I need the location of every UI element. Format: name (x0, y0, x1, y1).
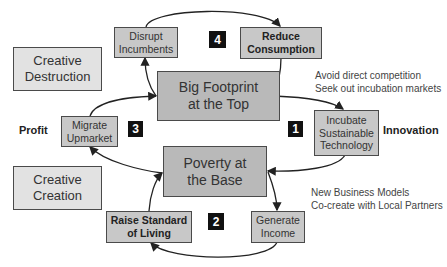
big-footprint-line2: at the Top (188, 96, 249, 113)
creative-destruction-line2: Destruction (25, 69, 91, 85)
profit-label: Profit (19, 124, 48, 136)
innovation-label: Innovation (383, 124, 439, 136)
reduce-line1: Reduce (262, 30, 300, 43)
note-top-line2: Seek out incubation markets (315, 82, 441, 95)
note-bottom-line1: New Business Models (311, 186, 443, 199)
disrupt-line2: Incumbents (119, 43, 173, 56)
note-bottom-line2: Co-create with Local Partners (311, 199, 443, 212)
incubate-technology-box: Incubate Sustainable Technology (314, 110, 379, 156)
reduce-line2: Consumption (247, 43, 315, 56)
creative-creation-box: Creative Creation (13, 166, 102, 210)
incubate-line3: Technology (320, 139, 373, 152)
step-badge-4: 4 (209, 31, 226, 48)
migrate-upmarket-box: Migrate Upmarket (61, 116, 118, 147)
generate-line2: Income (261, 227, 295, 240)
big-footprint-line1: Big Footprint (179, 79, 258, 96)
creative-destruction-line1: Creative (33, 53, 81, 69)
raise-line2: of Living (127, 227, 171, 240)
note-top-line1: Avoid direct competition (315, 69, 441, 82)
creative-destruction-box: Creative Destruction (13, 47, 102, 91)
creative-creation-line1: Creative (33, 172, 81, 188)
generate-income-box: Generate Income (251, 211, 305, 243)
step-badge-3: 3 (128, 121, 143, 137)
incubate-line2: Sustainable (319, 127, 374, 140)
reduce-consumption-box: Reduce Consumption (240, 27, 322, 59)
raise-line1: Raise Standard (111, 214, 187, 227)
poverty-base-box: Poverty at the Base (163, 146, 267, 197)
step-badge-2: 2 (208, 213, 224, 230)
poverty-line2: the Base (187, 172, 242, 189)
strategy-note-top: Avoid direct competition Seek out incuba… (315, 69, 441, 95)
raise-standard-box: Raise Standard of Living (106, 211, 192, 243)
step-badge-1: 1 (288, 121, 303, 137)
migrate-line1: Migrate (72, 119, 107, 132)
disrupt-incumbents-box: Disrupt Incumbents (114, 27, 178, 58)
strategy-note-bottom: New Business Models Co-create with Local… (311, 186, 443, 212)
big-footprint-box: Big Footprint at the Top (157, 71, 280, 121)
disrupt-line1: Disrupt (129, 30, 162, 43)
creative-creation-line2: Creation (33, 188, 82, 204)
incubate-line1: Incubate (326, 114, 366, 127)
migrate-line2: Upmarket (67, 132, 113, 145)
poverty-line1: Poverty at (183, 155, 246, 172)
generate-line1: Generate (256, 214, 300, 227)
